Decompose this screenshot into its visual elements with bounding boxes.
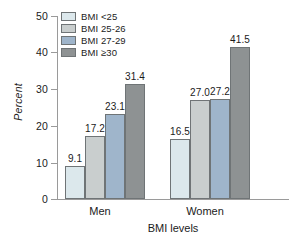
bar-value-men-bmi-27-29: 23.1 — [98, 102, 132, 112]
bar-group-women: 16.5 27.0 27.2 41.5 — [170, 16, 251, 199]
x-axis-label-women: Women — [160, 205, 250, 217]
y-axis-tick-30 — [51, 89, 58, 90]
bar-value-men-bmi-under25: 9.1 — [58, 154, 92, 164]
x-axis-label-men: Men — [55, 205, 145, 217]
y-axis-label-0: 0 — [8, 194, 48, 205]
y-axis-tick-40 — [51, 52, 58, 53]
y-axis-label-10: 10 — [8, 158, 48, 169]
bar-value-men-bmi-30plus: 31.4 — [118, 72, 152, 82]
bar-women-bmi-30plus[interactable] — [230, 47, 250, 199]
legend-item-bmi-30plus[interactable]: BMI ≥30 — [61, 47, 147, 58]
bar-value-women-bmi-under25: 16.5 — [163, 127, 197, 137]
y-axis-tick-10 — [51, 163, 58, 164]
bar-value-women-bmi-30plus: 41.5 — [223, 35, 257, 45]
bar-men-bmi-under25[interactable] — [65, 166, 85, 199]
legend-item-bmi-25-26[interactable]: BMI 25-26 — [61, 23, 147, 34]
bar-women-bmi-under25[interactable] — [170, 139, 190, 199]
x-axis-title: BMI levels — [57, 222, 289, 234]
legend-swatch-bmi-27-29 — [61, 36, 76, 45]
legend-label-bmi-under25: BMI <25 — [81, 12, 117, 22]
bar-value-men-bmi-25-26: 17.2 — [78, 124, 112, 134]
legend-swatch-bmi-30plus — [61, 48, 76, 57]
bar-women-bmi-25-26[interactable] — [190, 100, 210, 199]
y-axis-title: Percent — [12, 72, 24, 132]
legend-swatch-bmi-under25 — [61, 12, 76, 21]
y-axis-tick-0 — [51, 199, 58, 200]
bar-chart-figure: 50 40 30 20 10 0 Percent 9.1 17.2 23.1 3… — [0, 0, 300, 239]
legend-label-bmi-30plus: BMI ≥30 — [81, 48, 117, 58]
bar-women-bmi-27-29[interactable] — [210, 99, 230, 199]
chart-legend: BMI <25 BMI 25-26 BMI 27-29 BMI ≥30 — [61, 11, 147, 59]
y-axis-label-40: 40 — [8, 47, 48, 58]
legend-label-bmi-27-29: BMI 27-29 — [81, 36, 126, 46]
y-axis-label-50: 50 — [8, 11, 48, 22]
y-axis-tick-50 — [51, 16, 58, 17]
legend-label-bmi-25-26: BMI 25-26 — [81, 24, 126, 34]
y-axis-tick-20 — [51, 126, 58, 127]
bar-men-bmi-25-26[interactable] — [85, 136, 105, 199]
legend-swatch-bmi-25-26 — [61, 24, 76, 33]
x-axis-line — [57, 199, 289, 200]
bar-value-women-bmi-27-29: 27.2 — [203, 87, 237, 97]
legend-item-bmi-under25[interactable]: BMI <25 — [61, 11, 147, 22]
legend-item-bmi-27-29[interactable]: BMI 27-29 — [61, 35, 147, 46]
